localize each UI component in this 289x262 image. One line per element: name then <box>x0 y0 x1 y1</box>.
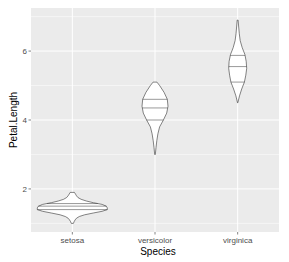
violin-chart: 246 setosaversicolorvirginica Species Pe… <box>0 0 289 262</box>
y-tick-label: 6 <box>23 47 28 56</box>
x-tick-label: virginica <box>223 236 253 245</box>
y-axis: 246 <box>23 47 31 194</box>
x-axis-title: Species <box>140 246 176 257</box>
y-axis-title: Petal.Length <box>8 92 19 148</box>
x-axis: setosaversicolorvirginica <box>61 232 253 245</box>
x-tick-label: versicolor <box>138 236 173 245</box>
y-tick-label: 2 <box>23 185 28 194</box>
x-tick-label: setosa <box>61 236 85 245</box>
y-tick-label: 4 <box>23 116 28 125</box>
